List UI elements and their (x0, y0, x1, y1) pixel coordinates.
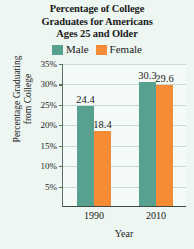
y-tick-mark (59, 125, 63, 126)
gridline (63, 64, 186, 65)
bar-2010-male: 30.3 (139, 82, 156, 206)
bar-value-label: 18.4 (93, 119, 111, 130)
x-tick-label-2010: 2010 (146, 210, 166, 221)
y-tick-mark (59, 64, 63, 65)
chart-title-line-2: Graduates for Americans (12, 16, 182, 29)
bar-value-label: 30.3 (138, 70, 156, 81)
legend-label-male: Male (66, 44, 89, 55)
y-tick-label: 15% (41, 141, 58, 151)
y-tick-mark (59, 105, 63, 106)
legend-swatch-male-icon (52, 45, 63, 55)
plot-area: 5%10%15%20%25%30%35%24.418.430.329.61990… (62, 64, 186, 207)
legend-swatch-female-icon (96, 45, 107, 55)
y-tick-label: 30% (41, 79, 58, 89)
y-tick-label: 35% (41, 59, 58, 69)
bar-1990-female: 18.4 (94, 131, 111, 206)
x-tick-label-1990: 1990 (84, 210, 104, 221)
legend-entry-female: Female (96, 44, 142, 55)
y-axis-title: Percentage Graduating from College (12, 29, 34, 169)
y-tick-label: 10% (41, 161, 58, 171)
y-tick-mark (59, 166, 63, 167)
legend-label-female: Female (110, 44, 142, 55)
bar-chart-figure: Percentage of College Graduates for Amer… (0, 0, 194, 249)
y-axis-title-line-2: from College (23, 29, 34, 169)
chart-title-line-1: Percentage of College (12, 3, 182, 16)
chart-title: Percentage of College Graduates for Amer… (12, 3, 182, 41)
y-tick-mark (59, 146, 63, 147)
bar-1990-male: 24.4 (77, 106, 94, 206)
x-axis-title: Year (62, 228, 186, 239)
y-tick-mark (59, 84, 63, 85)
y-tick-label: 25% (41, 100, 58, 110)
bar-value-label: 24.4 (76, 94, 94, 105)
y-axis-title-line-1: Percentage Graduating (12, 29, 23, 169)
y-tick-label: 5% (45, 182, 57, 192)
bar-value-label: 29.6 (155, 73, 173, 84)
chart-title-line-3: Ages 25 and Older (12, 28, 182, 41)
bar-2010-female: 29.6 (156, 85, 173, 206)
y-tick-mark (59, 187, 63, 188)
legend-entry-male: Male (52, 44, 89, 55)
y-tick-label: 20% (41, 120, 58, 130)
